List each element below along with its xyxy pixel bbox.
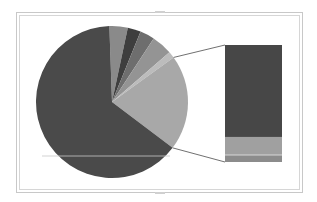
primary-pie [36, 26, 188, 178]
connector-top-line [174, 45, 225, 57]
secondary-bar [225, 45, 282, 162]
bar-segment-other-part-1[interactable] [225, 45, 282, 137]
connector-bottom-line [173, 148, 225, 162]
bar-of-pie-chart [0, 0, 317, 202]
bar-segment-other-part-3[interactable] [225, 155, 282, 162]
bar-segment-other-part-2[interactable] [225, 137, 282, 155]
